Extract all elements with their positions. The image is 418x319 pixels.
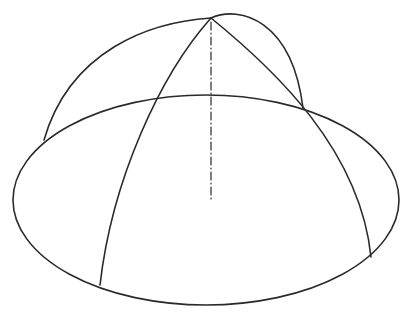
right-meridian-arc — [211, 18, 371, 257]
outer-right-arc — [211, 14, 303, 108]
base-ellipse — [13, 95, 399, 305]
dome-diagram — [0, 0, 418, 319]
left-meridian-arc — [100, 18, 211, 285]
outer-left-arc — [44, 18, 211, 140]
